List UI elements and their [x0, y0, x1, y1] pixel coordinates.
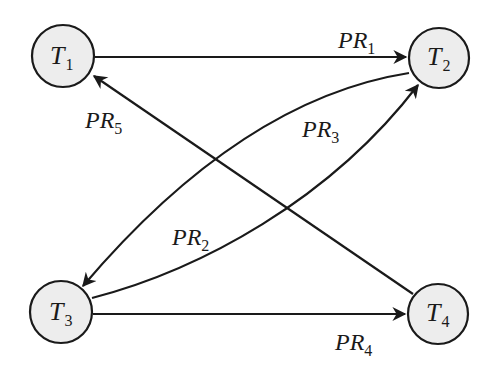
edge-label-pr3: PR3 — [301, 116, 339, 146]
node-t2[interactable]: T2 — [409, 28, 469, 88]
edge-label-pr4: PR4 — [334, 329, 372, 359]
node-t2-label: T — [427, 42, 443, 71]
node-t3[interactable]: T3 — [30, 281, 92, 343]
edge-pr2 — [92, 85, 418, 298]
node-t1[interactable]: T1 — [32, 25, 94, 87]
node-t3-label: T — [49, 297, 65, 326]
process-graph: T1 T2 T3 T4 PR1 PR2 PR3 PR4 PR5 — [0, 0, 497, 371]
node-t4-label: T — [426, 298, 442, 327]
node-t4[interactable]: T4 — [408, 284, 468, 344]
edge-pr5 — [94, 76, 413, 294]
edge-label-pr1: PR1 — [337, 27, 375, 57]
node-t1-label: T — [50, 41, 66, 70]
edge-label-pr5: PR5 — [84, 107, 122, 137]
edge-label-pr2: PR2 — [171, 224, 209, 254]
